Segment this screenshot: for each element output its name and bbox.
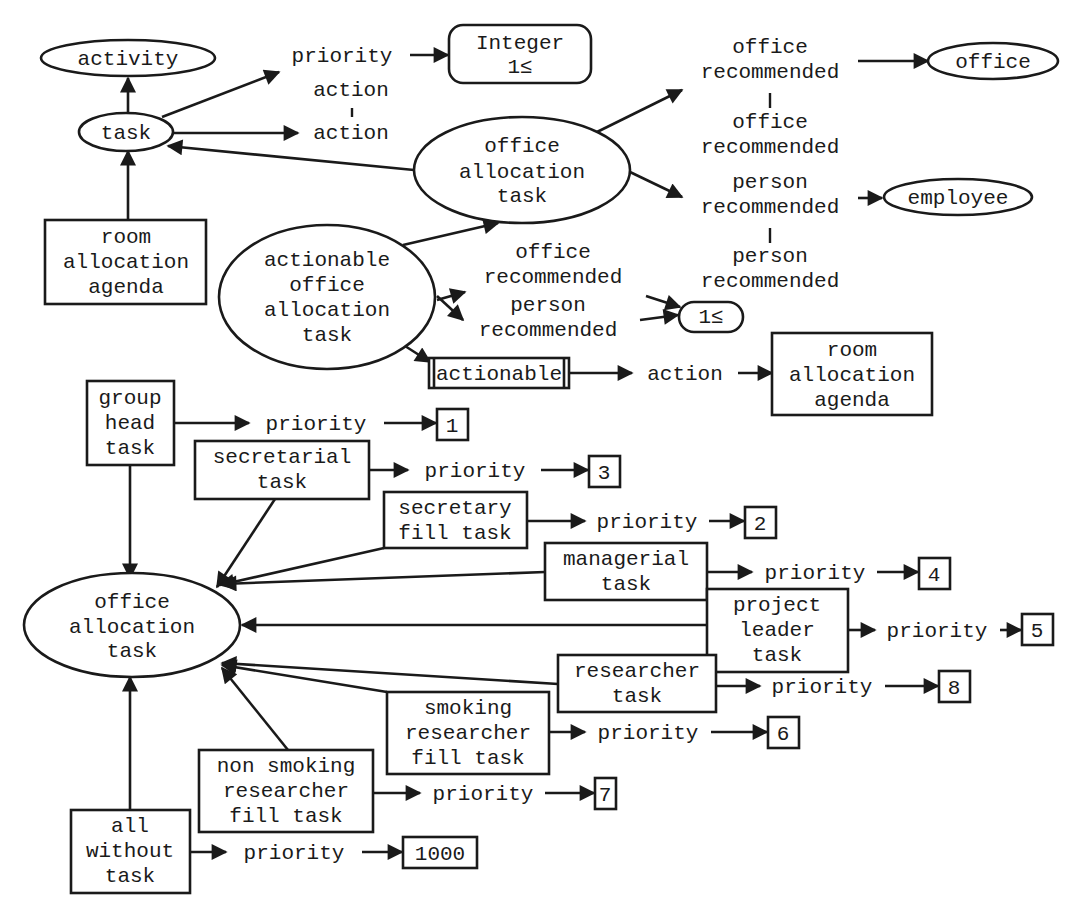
relation-office-recommended-actionable: office recommended	[484, 241, 623, 289]
priority-value-1[interactable]: 1	[437, 409, 468, 440]
priority-value-label: 3	[598, 462, 611, 485]
oat-bottom-line1: office	[94, 591, 170, 614]
secretary-fill-line1: secretary	[398, 497, 511, 520]
all-without-line2: without	[86, 840, 174, 863]
priority-value-label: 1000	[415, 843, 465, 866]
concept-actionable-office-allocation-task[interactable]: actionable office allocation task	[219, 225, 435, 369]
smoking-line2: researcher	[405, 722, 531, 745]
concept-employee[interactable]: employee	[884, 179, 1032, 215]
secretarial-line1: secretarial	[213, 446, 352, 469]
room-agenda-line3: agenda	[88, 276, 164, 299]
actionable-box[interactable]: actionable	[429, 358, 569, 388]
aoat-line1: actionable	[264, 249, 390, 272]
person-rec-2-line2: recommended	[701, 270, 840, 293]
project-leader-line1: project	[733, 594, 821, 617]
task-box-smoking-researcher-fill[interactable]: smoking researcher fill task	[387, 692, 549, 774]
priority-value-2[interactable]: 2	[745, 507, 776, 538]
priority-value-label: 6	[777, 723, 790, 746]
priority-value-4[interactable]: 4	[919, 558, 950, 589]
relation-priority-secretarial: priority	[425, 460, 526, 483]
act-office-rec-line2: recommended	[484, 266, 623, 289]
group-head-line1: group	[98, 387, 161, 410]
priority-value-8[interactable]: 8	[939, 671, 970, 702]
office-rec-1-line1: office	[732, 36, 808, 59]
room-allocation-agenda-box-2[interactable]: room allocation agenda	[772, 333, 932, 415]
relation-person-recommended-actionable: person recommended	[479, 294, 618, 342]
relation-action-actionable: action	[647, 363, 723, 386]
project-leader-line2: leader	[739, 619, 815, 642]
group-head-line3: task	[105, 437, 155, 460]
secretarial-line2: task	[257, 471, 307, 494]
researcher-line1: researcher	[574, 660, 700, 683]
type-integer[interactable]: Integer 1≤	[449, 25, 591, 83]
task-box-managerial[interactable]: managerial task	[545, 543, 707, 600]
non-smoking-line3: fill task	[229, 805, 342, 828]
priority-value-7[interactable]: 7	[595, 778, 616, 809]
person-rec-1-line1: person	[732, 171, 808, 194]
task-box-researcher[interactable]: researcher task	[558, 655, 716, 712]
act-person-rec-line1: person	[510, 294, 586, 317]
room-agenda2-line3: agenda	[814, 389, 890, 412]
relation-action-top: action	[313, 79, 389, 102]
task-box-all-without[interactable]: all without task	[71, 810, 190, 893]
task-box-secretarial[interactable]: secretarial task	[195, 441, 369, 499]
smoking-line1: smoking	[424, 697, 512, 720]
priority-value-1000[interactable]: 1000	[403, 837, 477, 868]
concept-office-allocation-task-bottom[interactable]: office allocation task	[24, 573, 240, 677]
type-integer-line1: Integer	[476, 32, 564, 55]
task-box-group-head[interactable]: group head task	[87, 381, 174, 465]
smoking-line3: fill task	[411, 747, 524, 770]
room-allocation-agenda-box[interactable]: room allocation agenda	[45, 220, 206, 304]
oat-top-line2: allocation	[459, 161, 585, 184]
concept-task[interactable]: task	[79, 113, 173, 151]
relation-priority-managerial: priority	[765, 562, 866, 585]
act-office-rec-line1: office	[515, 241, 591, 264]
task-box-project-leader[interactable]: project leader task	[707, 589, 848, 672]
group-head-line2: head	[105, 412, 155, 435]
type-integer-line2: 1≤	[507, 56, 532, 79]
relation-priority-smoking: priority	[598, 722, 699, 745]
priority-value-3[interactable]: 3	[589, 456, 620, 487]
priority-value-5[interactable]: 5	[1022, 614, 1053, 645]
concept-office-label: office	[955, 51, 1031, 74]
person-rec-2-line1: person	[732, 245, 808, 268]
relation-priority-project-leader: priority	[887, 620, 988, 643]
concept-activity[interactable]: activity	[41, 40, 215, 76]
office-rec-2-line2: recommended	[701, 136, 840, 159]
relation-person-recommended-2: person recommended	[701, 245, 840, 293]
relation-priority-secretary-fill: priority	[597, 511, 698, 534]
relation-priority-researcher: priority	[772, 676, 873, 699]
room-agenda-line2: allocation	[63, 251, 189, 274]
task-box-secretary-fill[interactable]: secretary fill task	[384, 492, 527, 548]
secretary-fill-line2: fill task	[398, 522, 511, 545]
priority-value-6[interactable]: 6	[768, 717, 799, 748]
aoat-line4: task	[302, 324, 352, 347]
office-allocation-conceptual-graph: activity task priority Integer 1≤ action…	[0, 0, 1080, 905]
task-box-non-smoking-researcher-fill[interactable]: non smoking researcher fill task	[199, 750, 373, 832]
aoat-line3: allocation	[264, 299, 390, 322]
all-without-line1: all	[111, 815, 149, 838]
actionable-box-label: actionable	[436, 363, 562, 386]
managerial-line2: task	[601, 573, 651, 596]
concept-employee-label: employee	[908, 187, 1009, 210]
relation-office-recommended-1: office recommended	[701, 36, 840, 84]
managerial-line1: managerial	[563, 548, 689, 571]
oat-bottom-line2: allocation	[69, 616, 195, 639]
priority-value-label: 2	[754, 513, 767, 536]
relation-priority-all-without: priority	[244, 842, 345, 865]
concept-office-allocation-task-top[interactable]: office allocation task	[414, 117, 630, 223]
priority-value-label: 7	[599, 784, 612, 807]
office-rec-1-line2: recommended	[701, 61, 840, 84]
concept-office[interactable]: office	[928, 43, 1058, 79]
office-rec-2-line1: office	[732, 111, 808, 134]
relation-action-bottom: action	[313, 122, 389, 145]
cardinality-box[interactable]: 1≤	[679, 302, 743, 332]
room-agenda2-line1: room	[827, 339, 877, 362]
cardinality-label: 1≤	[698, 306, 723, 329]
researcher-line2: task	[612, 685, 662, 708]
non-smoking-line1: non smoking	[217, 755, 356, 778]
priority-value-label: 5	[1031, 620, 1044, 643]
relation-priority-non-smoking: priority	[433, 783, 534, 806]
priority-value-label: 4	[928, 564, 941, 587]
relation-office-recommended-2: office recommended	[701, 111, 840, 159]
